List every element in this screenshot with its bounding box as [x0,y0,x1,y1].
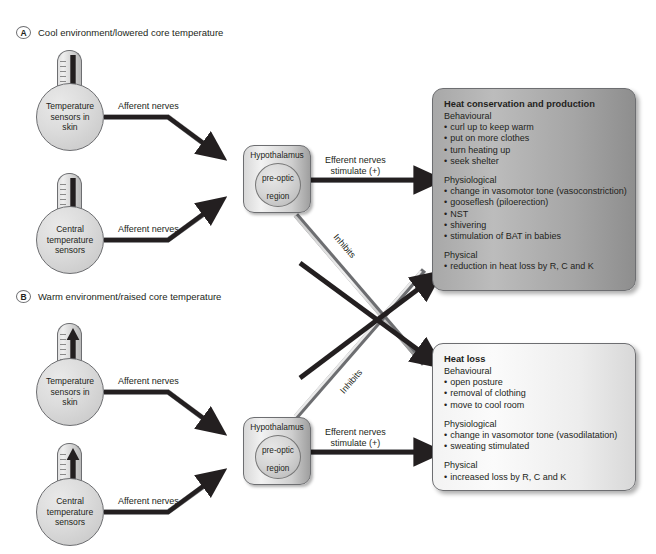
list-item: reduction in heat loss by R, C and K [444,261,624,272]
hypothalamus-title: Hypothalamus [244,422,310,432]
efferent-label-line2: stimulate (+) [325,438,386,449]
spacer [444,242,624,250]
list-item: change in vasomotor tone (vasoconstricti… [444,186,624,197]
efferent-label-warm: Efferent nerves stimulate (+) [325,427,386,448]
list-item: gooseflesh (piloerection) [444,197,624,208]
list-item: put on more clothes [444,133,624,144]
hypothalamus-title: Hypothalamus [244,150,310,160]
sensor-label-line3: skin [46,122,94,132]
thermoregulation-diagram: A Cool environment/lowered core temperat… [0,0,656,554]
group-heading-physiological: Physiological [444,419,624,430]
panel-label-a: A Cool environment/lowered core temperat… [16,26,223,39]
list-item: seek shelter [444,156,624,167]
afferent-path-skin-warm [104,390,215,427]
efferent-label-cool: Efferent nerves stimulate (+) [325,155,386,176]
heat-conservation-title: Heat conservation and production [444,99,624,110]
list-item: open posture [444,377,624,388]
list-item: sweating stimulated [444,441,624,452]
sensor-label-line1: Temperature [46,101,94,111]
panel-badge-b: B [16,290,31,303]
efferent-label-line2: stimulate (+) [325,166,386,177]
pre-optic-label-line2: region [267,464,290,473]
heat-conservation-box: Heat conservation and production Behavio… [432,88,636,291]
heat-loss-box: Heat loss Behavioural open posture remov… [432,343,636,491]
hypothalamus-box-cool: Hypothalamus pre-optic region [243,145,311,213]
afferent-label-central-cool: Afferent nerves [118,224,179,235]
afferent-path-central-cool [104,205,215,240]
group-heading-physical: Physical [444,460,624,471]
efferent-path-warm [310,451,424,453]
afferent-label-skin-warm: Afferent nerves [118,376,179,387]
afferent-path-central-warm [104,477,215,512]
list-item: move to cool room [444,400,624,411]
sensor-central-cool: Central temperature sensors [36,206,104,274]
list-item: removal of clothing [444,388,624,399]
sensor-label-line3: sensors [47,245,93,255]
pre-optic-region-warm: pre-optic region [255,435,301,479]
pre-optic-region-cool: pre-optic region [255,163,301,207]
list-item: change in vasomotor tone (vasodilatation… [444,430,624,441]
efferent-path-cool [310,179,424,181]
afferent-label-skin-cool: Afferent nerves [118,101,179,112]
afferent-path-skin-cool [104,115,215,152]
pre-optic-label-line1: pre-optic [262,174,294,183]
list-item: NST [444,209,624,220]
panel-label-b: B Warm environment/raised core temperatu… [16,290,221,303]
group-list-physiological: change in vasomotor tone (vasodilatation… [444,430,624,452]
sensor-label-line1: Central [47,224,93,234]
group-list-behavioural: open posture removal of clothing move to… [444,377,624,411]
group-heading-physiological: Physiological [444,175,624,186]
sensor-label-line2: sensors in [46,387,94,397]
group-heading-physical: Physical [444,250,624,261]
list-item: shivering [444,220,624,231]
hypothalamus-box-warm: Hypothalamus pre-optic region [243,417,311,485]
group-list-physical: increased loss by R, C and K [444,472,624,483]
sensor-skin-cool: Temperature sensors in skin [36,83,104,151]
heat-loss-title: Heat loss [444,354,624,365]
list-item: curl up to keep warm [444,122,624,133]
group-list-physiological: change in vasomotor tone (vasoconstricti… [444,186,624,242]
efferent-label-line1: Efferent nerves [325,155,386,166]
list-item: stimulation of BAT in babies [444,231,624,242]
pre-optic-label-line1: pre-optic [262,446,294,455]
sensor-label-line3: sensors [47,517,93,527]
group-heading-behavioural: Behavioural [444,366,624,377]
sensor-label-line2: temperature [47,507,93,517]
sensor-label-line1: Temperature [46,376,94,386]
panel-title-b: Warm environment/raised core temperature [38,291,221,302]
group-heading-behavioural: Behavioural [444,111,624,122]
sensor-skin-warm: Temperature sensors in skin [36,358,104,426]
sensor-label-line2: temperature [47,235,93,245]
spacer [444,167,624,175]
pre-optic-label-line2: region [267,192,290,201]
group-list-physical: reduction in heat loss by R, C and K [444,261,624,272]
afferent-label-central-warm: Afferent nerves [118,496,179,507]
sensor-label-line2: sensors in [46,112,94,122]
spacer [444,411,624,419]
sensor-label-line1: Central [47,496,93,506]
spacer [444,452,624,460]
list-item: increased loss by R, C and K [444,472,624,483]
list-item: turn heating up [444,145,624,156]
crossing-arrow-to-heat-conservation [300,287,421,378]
sensor-label-line3: skin [46,397,94,407]
panel-badge-a: A [16,26,31,39]
panel-title-a: Cool environment/lowered core temperatur… [38,27,223,38]
sensor-central-warm: Central temperature sensors [36,478,104,546]
group-list-behavioural: curl up to keep warm put on more clothes… [444,122,624,167]
efferent-label-line1: Efferent nerves [325,427,386,438]
